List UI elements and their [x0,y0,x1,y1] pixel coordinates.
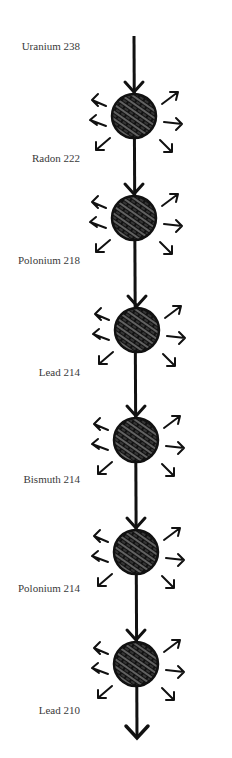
decay-chain-diagram [0,0,232,758]
nucleus-polonium-218 [93,296,185,366]
nucleus-bismuth-214 [92,518,184,588]
nucleus-lead-214 [92,406,184,476]
decay-line [134,36,137,736]
nucleus-uranium-238 [90,82,182,152]
